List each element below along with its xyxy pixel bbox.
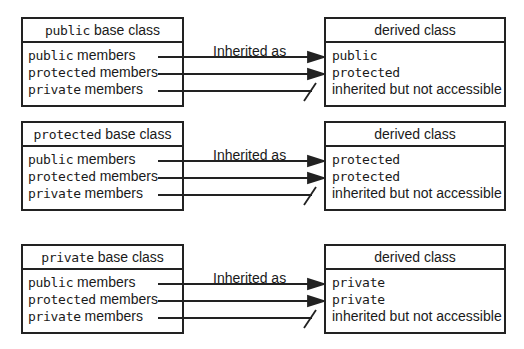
derived-row: protected: [332, 151, 504, 168]
derived-class-box: derived class public protected inherited…: [324, 17, 506, 107]
derived-class-header: derived class: [326, 123, 504, 147]
derived-class-header: derived class: [326, 246, 504, 270]
derived-row: protected: [332, 168, 504, 185]
arrowhead-icon: [308, 52, 324, 62]
derived-class-header: derived class: [326, 19, 504, 43]
derived-row: inherited but not accessible: [332, 308, 504, 325]
derived-row: inherited but not accessible: [332, 81, 504, 98]
derived-class-box: derived class protected protected inheri…: [324, 121, 506, 211]
private-inheritance-group: private base class public members protec…: [0, 244, 524, 336]
blocked-slash-icon: [304, 83, 316, 101]
arrowhead-icon: [308, 156, 324, 166]
derived-class-box: derived class private private inherited …: [324, 244, 506, 334]
derived-row: inherited but not accessible: [332, 185, 504, 202]
arrowhead-icon: [308, 296, 324, 306]
arrowhead-icon: [308, 279, 324, 289]
arrowhead-icon: [308, 69, 324, 79]
blocked-slash-icon: [304, 310, 316, 328]
protected-inheritance-group: protected base class public members prot…: [0, 121, 524, 213]
derived-row: protected: [332, 64, 504, 81]
derived-row: public: [332, 47, 504, 64]
derived-row: private: [332, 291, 504, 308]
blocked-slash-icon: [304, 187, 316, 205]
arrowhead-icon: [308, 173, 324, 183]
public-inheritance-group: public base class public members protect…: [0, 17, 524, 109]
derived-row: private: [332, 274, 504, 291]
